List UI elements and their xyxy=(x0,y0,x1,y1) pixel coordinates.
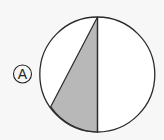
figure-canvas: A xyxy=(0,0,164,140)
option-label-text: A xyxy=(18,66,28,82)
circle-diagram: A xyxy=(0,0,164,140)
